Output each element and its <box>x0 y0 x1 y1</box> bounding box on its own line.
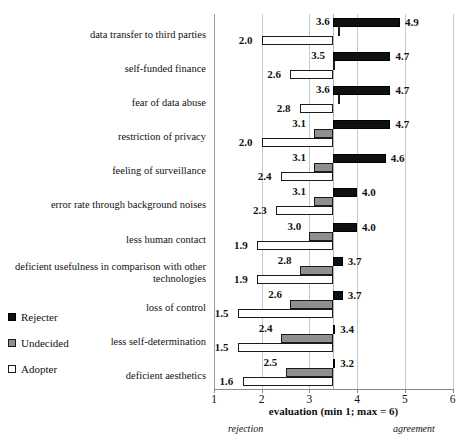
bar-adopter <box>257 275 333 284</box>
bar-rejecter <box>333 223 357 232</box>
legend-item-label: Undecided <box>21 337 69 349</box>
bar-rejecter <box>333 52 390 61</box>
category-label: self-funded finance <box>0 63 206 75</box>
legend-item-rejecter[interactable]: Rejecter <box>8 304 128 330</box>
legend-item-adopter[interactable]: Adopter <box>8 356 128 382</box>
bar-value-undecided: 3.5 <box>311 50 325 61</box>
bar-value-undecided: 3.1 <box>292 186 306 197</box>
bar-group: 3.22.51.6 <box>214 359 453 388</box>
bar-rejecter <box>333 120 390 129</box>
bar-rejecter <box>333 325 335 334</box>
bar-value-adopter: 1.5 <box>215 342 229 353</box>
undecided-swatch-icon <box>8 339 16 347</box>
category-label: error rate through background noises <box>0 199 206 211</box>
bar-value-rejecter: 4.7 <box>395 85 409 96</box>
bar-group: 4.03.01.9 <box>214 223 453 252</box>
bar-value-adopter: 1.9 <box>234 240 248 251</box>
bar-adopter <box>281 172 333 181</box>
bar-undecided <box>338 95 340 104</box>
bar-value-rejecter: 4.9 <box>405 17 419 28</box>
bar-value-rejecter: 3.4 <box>340 324 354 335</box>
bar-undecided <box>314 163 333 172</box>
bar-rejecter <box>333 86 390 95</box>
bar-rejecter <box>333 154 385 163</box>
bar-value-rejecter: 3.7 <box>348 256 362 267</box>
category-label: less human contact <box>0 234 206 246</box>
bar-value-undecided: 3.1 <box>292 152 306 163</box>
bar-adopter <box>257 241 333 250</box>
bar-group: 4.93.62.0 <box>214 18 453 47</box>
bar-value-adopter: 1.5 <box>215 308 229 319</box>
bar-group: 3.72.61.5 <box>214 291 453 320</box>
bar-group: 4.73.52.6 <box>214 52 453 81</box>
bar-value-adopter: 2.6 <box>267 69 281 80</box>
category-label: fear of data abuse <box>0 97 206 109</box>
rejecter-swatch-icon <box>8 313 16 321</box>
bar-group: 3.42.41.5 <box>214 325 453 354</box>
bar-rejecter <box>333 291 343 300</box>
bar-rejecter <box>333 257 343 266</box>
bar-adopter <box>300 104 333 113</box>
bar-value-rejecter: 4.0 <box>362 187 376 198</box>
bar-undecided <box>309 232 333 241</box>
bar-value-rejecter: 3.2 <box>340 358 354 369</box>
bar-undecided <box>300 266 333 275</box>
bar-adopter <box>262 138 334 147</box>
x-axis-line <box>214 389 453 390</box>
adopter-swatch-icon <box>8 365 16 373</box>
bar-value-undecided: 2.5 <box>264 357 278 368</box>
bar-undecided <box>338 27 340 36</box>
category-label: data transfer to third parties <box>0 29 206 41</box>
bar-value-adopter: 2.8 <box>277 103 291 114</box>
bar-rejecter <box>333 359 335 368</box>
axis-pole-rejection: rejection <box>228 423 263 434</box>
x-axis-title: evaluation (min 1; max = 6) <box>214 405 453 417</box>
bar-adopter <box>243 377 334 386</box>
bar-chart: 4.93.62.04.73.52.64.73.62.84.73.12.04.63… <box>0 0 472 445</box>
bar-value-undecided: 3.1 <box>292 118 306 129</box>
bar-adopter <box>276 206 333 215</box>
bar-value-undecided: 3.0 <box>287 221 301 232</box>
bar-value-adopter: 2.3 <box>253 205 267 216</box>
bar-group: 4.63.12.4 <box>214 154 453 183</box>
bar-group: 4.73.12.0 <box>214 120 453 149</box>
bar-rejecter <box>333 188 357 197</box>
bar-value-adopter: 1.6 <box>220 376 234 387</box>
bar-value-rejecter: 4.6 <box>391 153 405 164</box>
bar-group: 4.03.12.3 <box>214 188 453 217</box>
bar-adopter <box>290 70 333 79</box>
bar-rejecter <box>333 18 400 27</box>
bar-value-undecided: 3.6 <box>316 84 330 95</box>
bar-undecided <box>314 197 333 206</box>
bar-value-undecided: 2.4 <box>259 323 273 334</box>
legend-item-undecided[interactable]: Undecided <box>8 330 128 356</box>
legend-item-label: Rejecter <box>21 311 58 323</box>
bar-value-undecided: 3.6 <box>316 16 330 27</box>
bar-value-adopter: 2.4 <box>258 171 272 182</box>
bar-adopter <box>238 343 333 352</box>
plot-area: 4.93.62.04.73.52.64.73.62.84.73.12.04.63… <box>214 14 453 389</box>
bar-group: 3.72.81.9 <box>214 257 453 286</box>
bar-undecided <box>281 334 333 343</box>
bar-value-adopter: 2.0 <box>239 35 253 46</box>
category-label: deficient usefulness in comparison with … <box>0 261 206 285</box>
bar-undecided <box>333 61 335 70</box>
category-label: feeling of surveillance <box>0 165 206 177</box>
bar-value-rejecter: 4.0 <box>362 222 376 233</box>
bar-value-undecided: 2.6 <box>268 289 282 300</box>
bar-undecided <box>314 129 333 138</box>
chart-legend: RejecterUndecidedAdopter <box>8 304 128 382</box>
bar-undecided <box>290 300 333 309</box>
bar-value-undecided: 2.8 <box>278 255 292 266</box>
bar-value-rejecter: 4.7 <box>395 119 409 130</box>
bar-adopter <box>238 309 333 318</box>
bar-value-adopter: 1.9 <box>234 274 248 285</box>
bar-group: 4.73.62.8 <box>214 86 453 115</box>
category-label: restriction of privacy <box>0 131 206 143</box>
bar-value-rejecter: 3.7 <box>348 290 362 301</box>
bar-value-adopter: 2.0 <box>239 137 253 148</box>
legend-item-label: Adopter <box>21 363 57 375</box>
bar-value-rejecter: 4.7 <box>395 51 409 62</box>
bar-undecided <box>286 368 334 377</box>
axis-pole-agreement: agreement <box>393 423 435 434</box>
